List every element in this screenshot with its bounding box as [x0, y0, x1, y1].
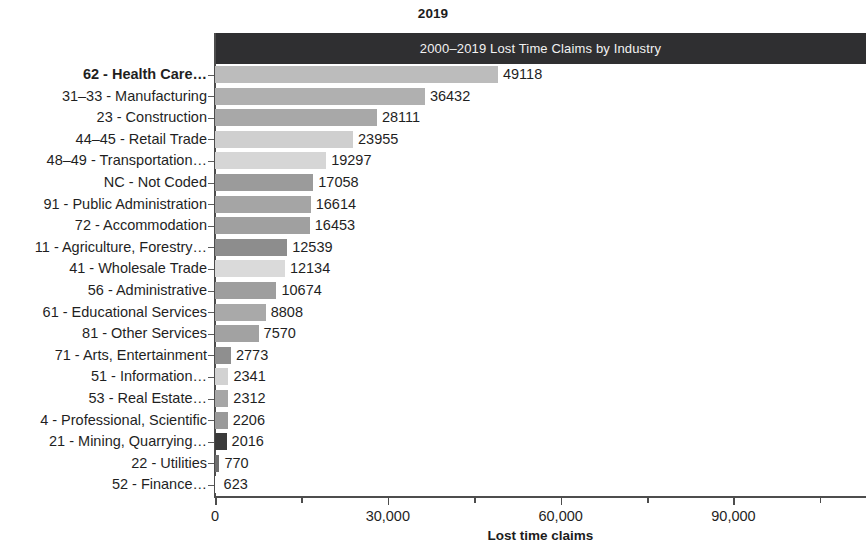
- bar-row[interactable]: 17058: [215, 172, 866, 194]
- bar[interactable]: [215, 239, 287, 256]
- y-axis-label[interactable]: 72 - Accommodation: [75, 216, 207, 234]
- bar-value-label: 2773: [231, 346, 268, 365]
- bar[interactable]: [215, 109, 377, 126]
- y-axis-label[interactable]: 61 - Educational Services: [43, 303, 207, 321]
- bar[interactable]: [215, 282, 276, 299]
- bar[interactable]: [215, 152, 326, 169]
- bar[interactable]: [215, 325, 259, 342]
- y-axis-tick: [208, 291, 214, 292]
- bar-value-label: 16453: [310, 216, 355, 235]
- bar-row[interactable]: 2206: [215, 410, 866, 432]
- y-axis-tick: [208, 161, 214, 162]
- y-axis-label[interactable]: 48–49 - Transportation…: [47, 151, 207, 169]
- x-axis-minor-tick: [647, 497, 649, 503]
- y-axis-label[interactable]: 71 - Arts, Entertainment: [55, 346, 207, 364]
- chart-title: 2019: [0, 6, 866, 21]
- y-axis-label[interactable]: 52 - Finance…: [112, 475, 207, 493]
- bar[interactable]: [215, 260, 285, 277]
- y-axis-tick: [208, 377, 214, 378]
- bar-value-label: 49118: [498, 65, 542, 84]
- y-axis-label[interactable]: 22 - Utilities: [131, 454, 207, 472]
- bar[interactable]: [215, 217, 310, 234]
- bar-value-label: 10674: [276, 281, 321, 300]
- y-axis-tick: [208, 226, 214, 227]
- bar[interactable]: [215, 347, 231, 364]
- y-axis-label[interactable]: 31–33 - Manufacturing: [62, 87, 207, 105]
- bar[interactable]: [215, 131, 353, 148]
- y-axis-label[interactable]: 21 - Mining, Quarrying…: [49, 432, 207, 450]
- y-axis-tick: [208, 75, 214, 76]
- bar-row[interactable]: 19297: [215, 150, 866, 172]
- bar-row[interactable]: 10674: [215, 280, 866, 302]
- bar-row[interactable]: 12134: [215, 258, 866, 280]
- bar-row[interactable]: 23955: [215, 129, 866, 151]
- y-axis-label[interactable]: 4 - Professional, Scientific: [40, 411, 207, 429]
- y-axis-tick: [208, 442, 214, 443]
- plot-area: 4911836432281112395519297170581661416453…: [215, 64, 866, 496]
- y-axis-label[interactable]: 44–45 - Retail Trade: [76, 130, 207, 148]
- y-axis-label[interactable]: 51 - Information…: [91, 367, 207, 385]
- bar-row[interactable]: 2016: [215, 431, 866, 453]
- bar-value-label: 23955: [353, 130, 398, 149]
- bar-row[interactable]: 36432: [215, 86, 866, 108]
- y-axis-label[interactable]: 11 - Agriculture, Forestry…: [35, 238, 207, 256]
- bar-row[interactable]: 12539: [215, 237, 866, 259]
- y-axis-tick: [208, 139, 214, 140]
- chart-header-band-label: 2000–2019 Lost Time Claims by Industry: [215, 33, 866, 64]
- bar-row[interactable]: 28111: [215, 107, 866, 129]
- bar-row[interactable]: 7570: [215, 323, 866, 345]
- bar-value-label: 16614: [311, 195, 356, 214]
- bar-row[interactable]: 49118: [215, 64, 866, 86]
- y-axis-tick: [208, 96, 214, 97]
- bar-value-label: 8808: [266, 303, 303, 322]
- y-axis-tick: [208, 355, 214, 356]
- y-axis-tick: [208, 183, 214, 184]
- x-axis-tick-label: 0: [211, 506, 219, 526]
- bar-row[interactable]: 16614: [215, 194, 866, 216]
- bar-value-label: 19297: [326, 151, 371, 170]
- bar-value-label: 2016: [227, 432, 264, 451]
- bar[interactable]: [215, 433, 227, 450]
- bar-row[interactable]: 2312: [215, 388, 866, 410]
- x-axis-minor-tick: [820, 497, 822, 503]
- bar-value-label: 2206: [228, 411, 265, 430]
- y-axis-tick: [208, 420, 214, 421]
- bar[interactable]: [215, 412, 228, 429]
- y-axis-label[interactable]: 81 - Other Services: [82, 324, 207, 342]
- y-axis-tick: [208, 118, 214, 119]
- bar-value-label: 12539: [287, 238, 332, 257]
- x-axis-tick-label: 30,000: [366, 506, 410, 526]
- bar-row[interactable]: 2773: [215, 345, 866, 367]
- bar[interactable]: [215, 196, 311, 213]
- bar[interactable]: [215, 174, 313, 191]
- y-axis-tick: [208, 399, 214, 400]
- y-axis-label[interactable]: 53 - Real Estate…: [89, 389, 207, 407]
- bar-row[interactable]: 770: [215, 453, 866, 475]
- y-axis-label[interactable]: 56 - Administrative: [88, 281, 207, 299]
- bar-row[interactable]: 623: [215, 474, 866, 496]
- bar[interactable]: [215, 66, 498, 83]
- bar-value-label: 28111: [377, 108, 420, 127]
- x-axis-tick: [561, 497, 563, 505]
- bar-row[interactable]: 8808: [215, 302, 866, 324]
- bar[interactable]: [215, 368, 228, 385]
- y-axis-label[interactable]: 62 - Health Care…: [83, 65, 207, 83]
- y-axis-tick: [208, 463, 214, 464]
- y-axis-label[interactable]: 91 - Public Administration: [43, 195, 207, 213]
- x-axis-tick: [733, 497, 735, 505]
- bar[interactable]: [215, 88, 425, 105]
- y-axis-label[interactable]: 23 - Construction: [97, 108, 207, 126]
- bar-row[interactable]: 16453: [215, 215, 866, 237]
- bar-value-label: 2312: [228, 389, 265, 408]
- x-axis-minor-tick: [474, 497, 476, 503]
- y-axis-label[interactable]: 41 - Wholesale Trade: [69, 259, 207, 277]
- bar[interactable]: [215, 390, 228, 407]
- bar-row[interactable]: 2341: [215, 366, 866, 388]
- bar[interactable]: [215, 304, 266, 321]
- x-axis-minor-tick: [301, 497, 303, 503]
- bar-value-label: 12134: [285, 259, 330, 278]
- y-axis-label[interactable]: NC - Not Coded: [104, 173, 207, 191]
- y-axis-tick: [208, 204, 214, 205]
- y-axis-tick: [208, 334, 214, 335]
- bar-value-label: 623: [219, 475, 248, 494]
